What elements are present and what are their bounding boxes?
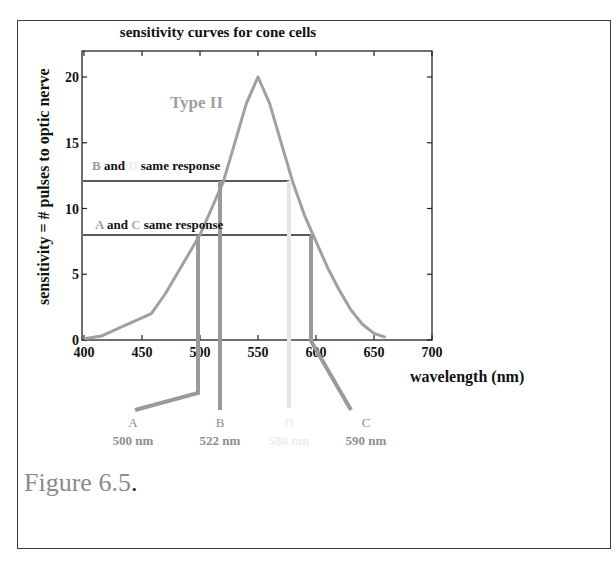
marker-letter-c: C	[331, 414, 401, 432]
figure-caption: Figure 6.5.	[24, 468, 137, 498]
marker-letter-b: B	[185, 414, 255, 432]
y-ticks: 05101520	[65, 70, 432, 348]
y-tick-label: 20	[65, 70, 79, 85]
y-tick-label: 15	[65, 136, 79, 151]
x-tick-label: 450	[132, 345, 153, 360]
x-ticks: 400450500550600650700	[74, 51, 443, 360]
marker-label-a: A 500 nm	[98, 414, 168, 450]
marker-line-a	[135, 235, 198, 410]
y-tick-label: 0	[72, 333, 79, 348]
y-tick-label: 5	[72, 267, 79, 282]
x-tick-label: 550	[248, 345, 269, 360]
x-tick-label: 650	[364, 345, 385, 360]
x-tick-label: 700	[422, 345, 443, 360]
marker-label-b: B 522 nm	[185, 414, 255, 450]
figure-caption-text: Figure 6.5	[24, 468, 131, 497]
annotation-bd: B and D same response	[92, 158, 221, 173]
marker-line-c	[311, 235, 351, 410]
marker-label-d: D 580 nm	[254, 414, 324, 450]
marker-value-a: 500 nm	[98, 432, 168, 450]
marker-value-c: 590 nm	[331, 432, 401, 450]
marker-value-b: 522 nm	[185, 432, 255, 450]
axes-box	[82, 51, 432, 340]
annotation-ac: A and C same response	[95, 217, 224, 232]
marker-letter-d: D	[254, 414, 324, 432]
marker-label-c: C 590 nm	[331, 414, 401, 450]
curve-label: Type II	[170, 93, 223, 112]
marker-value-d: 580 nm	[254, 432, 324, 450]
type-ii-curve	[84, 77, 386, 339]
y-tick-label: 10	[65, 202, 79, 217]
marker-letter-a: A	[98, 414, 168, 432]
figure-caption-dot: .	[131, 468, 138, 497]
